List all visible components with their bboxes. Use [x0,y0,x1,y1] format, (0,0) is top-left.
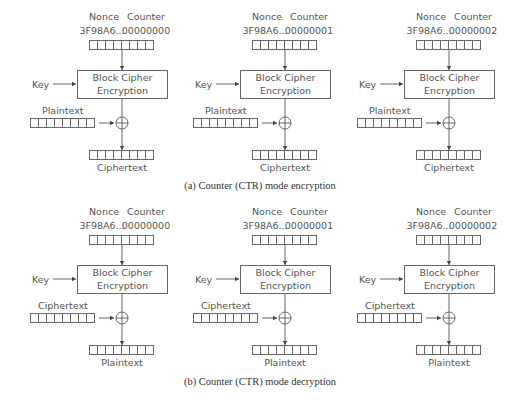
register-cell [374,119,382,127]
register-cell [457,346,465,354]
input-label: Plaintext [369,106,411,116]
register-cell [226,314,234,322]
register-cell [71,119,79,127]
register-cell [253,41,261,49]
register-cell [234,314,242,322]
counter-register [89,235,154,245]
register-cell [55,119,63,127]
register-cell [285,41,293,49]
register-cell [301,346,309,354]
register-cell [358,119,366,127]
register-cell [433,41,441,49]
output-register [89,345,154,355]
counter-label: Counter [454,207,492,217]
xor-icon [279,117,291,129]
input-label: Plaintext [42,106,84,116]
counter-value: 00000002 [449,26,497,36]
block-cipher-text: Block Cipher [241,267,330,280]
counter-label: Counter [127,207,165,217]
register-cell [261,151,269,159]
register-cell [457,151,465,159]
output-register [252,345,317,355]
block-cipher-text: Encryption [405,280,494,293]
xor-icon [443,312,455,324]
register-cell [457,41,465,49]
counter-register [252,235,317,245]
counter-value: 00000000 [122,26,170,36]
block-cipher-text: Encryption [78,85,167,98]
register-cell [366,119,374,127]
register-cell [130,151,138,159]
register-cell [98,236,106,244]
register-cell [98,151,106,159]
register-cell [114,41,122,49]
register-cell [398,314,406,322]
nonce-label: Nonce [416,207,446,217]
register-cell [114,151,122,159]
input-label: Plaintext [205,106,247,116]
block-cipher-box: Block CipherEncryption [77,265,168,294]
panel-caption: (b) Counter (CTR) mode decryption [0,376,520,387]
register-cell [130,41,138,49]
register-cell [146,151,153,159]
counter-value: 00000001 [285,26,333,36]
xor-icon [116,117,128,129]
nonce-value: 3F98A6... [79,221,124,231]
register-cell [382,119,390,127]
counter-register [89,40,154,50]
register-cell [234,119,242,127]
register-cell [79,314,87,322]
register-cell [441,346,449,354]
nonce-value: 3F98A6... [242,221,287,231]
register-cell [79,119,87,127]
register-cell [433,151,441,159]
output-register [416,345,481,355]
register-cell [309,151,316,159]
xor-icon [116,312,128,324]
register-cell [250,314,257,322]
register-cell [406,314,414,322]
output-label: Plaintext [264,358,306,368]
register-cell [122,236,130,244]
block-cipher-text: Encryption [405,85,494,98]
register-cell [285,236,293,244]
register-cell [242,119,250,127]
register-cell [202,119,210,127]
register-cell [417,41,425,49]
register-cell [130,346,138,354]
register-cell [269,41,277,49]
register-cell [390,119,398,127]
key-label: Key [32,80,49,90]
nonce-value: 3F98A6... [242,26,287,36]
register-cell [261,346,269,354]
register-cell [441,236,449,244]
register-cell [87,314,94,322]
register-cell [106,346,114,354]
block-cipher-box: Block CipherEncryption [404,265,495,294]
register-cell [441,41,449,49]
register-cell [218,314,226,322]
register-cell [425,41,433,49]
panel-caption: (a) Counter (CTR) mode encryption [0,180,520,191]
input-label: Ciphertext [201,301,251,311]
counter-value: 00000002 [449,221,497,231]
output-register [416,150,481,160]
register-cell [277,41,285,49]
register-cell [253,346,261,354]
register-cell [309,236,316,244]
register-cell [449,346,457,354]
nonce-label: Nonce [252,207,282,217]
register-cell [194,119,202,127]
register-cell [90,236,98,244]
register-cell [194,314,202,322]
block-cipher-text: Encryption [78,280,167,293]
register-cell [146,236,153,244]
register-cell [473,346,480,354]
register-cell [301,236,309,244]
register-cell [473,151,480,159]
counter-register [252,40,317,50]
register-cell [465,346,473,354]
register-cell [398,119,406,127]
register-cell [293,151,301,159]
input-register [193,118,258,128]
